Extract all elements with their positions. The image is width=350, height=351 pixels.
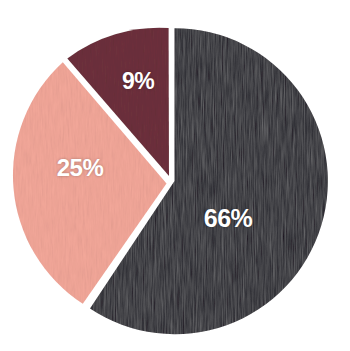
pie-chart-svg xyxy=(0,0,350,351)
pie-chart-figure: 66% 25% 9% xyxy=(0,0,350,351)
